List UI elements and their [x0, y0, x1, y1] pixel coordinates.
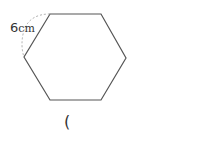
answer-paren: (	[64, 112, 70, 131]
hexagon	[24, 14, 126, 100]
side-length-unit: cm	[18, 22, 35, 35]
side-length-label: 6cm	[10, 20, 35, 35]
